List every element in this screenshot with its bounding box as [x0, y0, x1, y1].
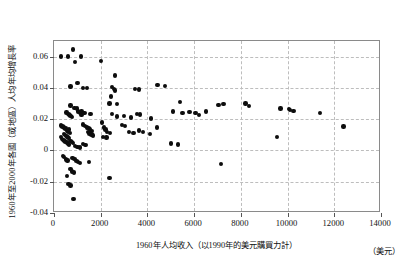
gridline-vertical: [288, 41, 289, 211]
data-point: [115, 102, 119, 106]
data-point: [70, 115, 74, 119]
gridline-vertical: [334, 41, 335, 211]
x-axis-tick: [194, 213, 195, 217]
x-axis-tick-label: 0: [51, 218, 55, 228]
y-axis-tick: [50, 182, 54, 183]
data-point: [107, 176, 111, 180]
gridline-vertical: [194, 41, 195, 211]
x-axis-tick: [381, 213, 382, 217]
data-point: [155, 83, 159, 87]
data-point: [113, 73, 117, 77]
x-axis-tick: [101, 213, 102, 217]
scatter-plot-figure: 1960年至2000年各國（或地區）人均年均增長率 1960年人均收入（以199…: [0, 0, 407, 263]
y-axis-tick-label: 0.04: [20, 82, 48, 92]
data-point: [138, 112, 142, 116]
x-axis-tick-label: 6000: [185, 218, 202, 228]
data-point: [78, 145, 82, 149]
data-point: [247, 104, 251, 108]
data-point: [87, 160, 91, 164]
data-point: [180, 111, 184, 115]
data-point: [141, 130, 145, 134]
data-point: [155, 125, 159, 129]
data-point: [72, 170, 76, 174]
x-axis-unit-label: （美元）: [368, 244, 400, 256]
x-axis-tick-label: 14000: [369, 218, 390, 228]
data-point: [108, 131, 112, 135]
data-point: [341, 124, 345, 128]
data-point: [78, 161, 82, 165]
data-point: [318, 111, 322, 115]
data-point: [197, 113, 201, 117]
data-point: [129, 115, 133, 119]
plot-area: [53, 40, 380, 212]
x-axis-label: 1960年人均收入（以1990年的美元購買力計）: [53, 238, 380, 250]
data-point: [68, 183, 72, 187]
data-point: [107, 101, 111, 105]
data-point: [123, 124, 127, 128]
data-point: [99, 59, 103, 63]
data-point: [65, 158, 69, 162]
data-point: [113, 88, 117, 92]
data-point: [275, 135, 279, 139]
data-point: [171, 109, 175, 113]
data-point: [219, 162, 223, 166]
x-axis-tick-label: 4000: [138, 218, 155, 228]
data-point: [178, 100, 182, 104]
y-axis-label: 1960年至2000年各國（或地區）人均年均增長率: [2, 0, 20, 263]
y-axis-tick: [50, 57, 54, 58]
data-point: [149, 116, 153, 120]
gridline-horizontal: [54, 150, 379, 151]
x-axis-tick: [54, 213, 55, 217]
gridline-vertical: [147, 41, 148, 211]
data-point: [104, 135, 108, 139]
y-axis-tick: [50, 88, 54, 89]
x-axis-tick-label: 10000: [276, 218, 297, 228]
data-point: [91, 133, 95, 137]
data-point: [131, 131, 135, 135]
data-point: [71, 47, 75, 51]
data-point: [122, 114, 126, 118]
y-axis-tick: [50, 213, 54, 214]
data-point: [65, 174, 69, 178]
y-axis-tick-label: -0.02: [20, 176, 48, 186]
data-point: [204, 109, 208, 113]
y-axis-tick-label: 0: [20, 144, 48, 154]
x-axis-tick: [334, 213, 335, 217]
data-point: [278, 106, 282, 110]
x-axis-tick-label: 8000: [231, 218, 248, 228]
gridline-horizontal: [54, 182, 379, 183]
y-axis-tick-label: 0.02: [20, 113, 48, 123]
data-point: [109, 94, 113, 98]
data-point: [71, 197, 75, 201]
data-point: [221, 102, 225, 106]
x-axis-tick: [241, 213, 242, 217]
y-axis-tick-label: 0.06: [20, 51, 48, 61]
data-point: [88, 112, 92, 116]
y-axis-tick-label: -0.04: [20, 207, 48, 217]
data-point: [115, 114, 119, 118]
x-axis-tick-label: 12000: [323, 218, 344, 228]
data-point: [59, 54, 63, 58]
data-point: [82, 111, 86, 115]
data-point: [79, 54, 83, 58]
data-point: [187, 110, 191, 114]
gridline-horizontal: [54, 57, 379, 58]
data-point: [68, 84, 72, 88]
data-point: [176, 142, 180, 146]
x-axis-tick-label: 2000: [91, 218, 108, 228]
gridline-vertical: [241, 41, 242, 211]
data-point: [291, 109, 295, 113]
data-point: [85, 86, 89, 90]
y-axis-tick: [50, 150, 54, 151]
data-point: [137, 87, 141, 91]
data-point: [148, 132, 152, 136]
data-point: [110, 112, 114, 116]
x-axis-tick: [288, 213, 289, 217]
y-axis-tick: [50, 119, 54, 120]
data-point: [73, 60, 77, 64]
data-point: [75, 81, 79, 85]
data-point: [66, 54, 70, 58]
data-point: [169, 141, 173, 145]
x-axis-tick: [147, 213, 148, 217]
data-point: [83, 143, 87, 147]
